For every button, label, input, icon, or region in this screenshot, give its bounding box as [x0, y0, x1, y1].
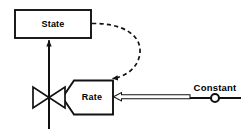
constant-to-rate-connector[interactable] — [114, 93, 191, 101]
state-label: State — [15, 20, 91, 29]
state-to-rate-influence-connector[interactable] — [92, 23, 140, 78]
constant-circle-icon[interactable] — [211, 94, 219, 102]
valve-left-triangle — [33, 87, 49, 108]
valve-right-triangle — [49, 87, 65, 108]
rate-label: Rate — [70, 93, 114, 102]
influence-dashed-curve[interactable] — [92, 23, 140, 78]
bowtie-valve-icon — [33, 41, 65, 130]
hollow-arrow-shape[interactable] — [114, 93, 191, 101]
node-constant[interactable] — [190, 94, 241, 102]
diagram-canvas: State Rate Constant — [0, 0, 247, 136]
constant-label: Constant — [186, 83, 244, 93]
